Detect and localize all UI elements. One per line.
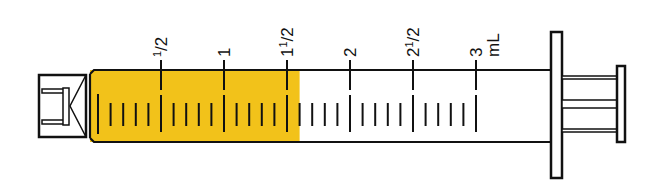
syringe-tip <box>39 75 86 137</box>
liquid-fill <box>90 70 300 142</box>
scale-label: 1/2 <box>151 37 171 57</box>
finger-flange <box>551 32 562 178</box>
scale-labels: 1/2111/2221/23mL <box>151 27 503 57</box>
plunger[interactable] <box>562 66 625 142</box>
syringe-diagram: 1/2111/2221/23mL <box>0 0 651 192</box>
unit-label: mL <box>484 33 503 57</box>
syringe-barrel <box>90 70 552 142</box>
scale-label: 2 <box>341 48 360 57</box>
scale-label: 1 <box>215 48 234 57</box>
scale-label: 21/2 <box>403 27 423 57</box>
scale-label: 11/2 <box>277 27 297 57</box>
